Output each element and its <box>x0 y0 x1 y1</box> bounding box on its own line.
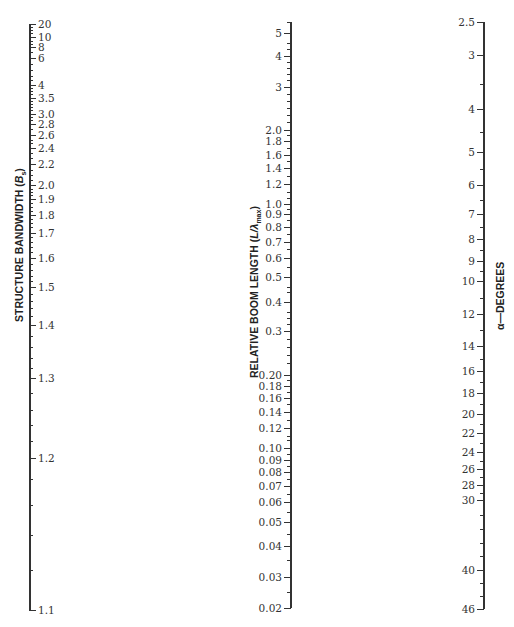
major-tick <box>477 371 484 372</box>
minor-tick <box>480 556 484 557</box>
scale-alpha-degrees: 2.5345678910121416182022242628304046α—DE… <box>0 0 514 627</box>
tick-label: 8 <box>468 234 475 244</box>
tick-label: 46 <box>462 604 475 614</box>
axis-title: α—DEGREES <box>494 262 506 330</box>
major-tick <box>477 261 484 262</box>
major-tick <box>477 570 484 571</box>
tick-label: 16 <box>462 366 475 376</box>
tick-label: 28 <box>462 480 475 490</box>
major-tick <box>477 314 484 315</box>
minor-tick <box>480 424 484 425</box>
axis-line <box>483 22 485 609</box>
minor-tick <box>480 359 484 360</box>
major-tick <box>477 433 484 434</box>
minor-tick <box>480 330 484 331</box>
major-tick <box>477 393 484 394</box>
tick-label: 5 <box>468 147 475 157</box>
major-tick <box>477 55 484 56</box>
tick-label: 30 <box>462 495 475 505</box>
tick-label: 22 <box>462 428 475 438</box>
major-tick <box>477 185 484 186</box>
major-tick <box>477 109 484 110</box>
tick-label: 40 <box>462 565 475 575</box>
major-tick <box>477 485 484 486</box>
tick-label: 2.5 <box>458 17 475 27</box>
tick-label: 20 <box>462 409 475 419</box>
major-tick <box>477 414 484 415</box>
minor-tick <box>480 298 484 299</box>
tick-label: 9 <box>468 256 475 266</box>
minor-tick <box>480 493 484 494</box>
major-tick <box>477 22 484 23</box>
minor-tick <box>480 596 484 597</box>
tick-label: 6 <box>468 180 475 190</box>
tick-label: 4 <box>468 104 475 114</box>
major-tick <box>477 214 484 215</box>
minor-tick <box>480 250 484 251</box>
major-tick <box>477 609 484 610</box>
minor-tick <box>480 227 484 228</box>
minor-tick <box>480 404 484 405</box>
minor-tick <box>480 271 484 272</box>
tick-label: 26 <box>462 464 475 474</box>
major-tick <box>477 452 484 453</box>
minor-tick <box>480 477 484 478</box>
minor-tick <box>480 529 484 530</box>
tick-label: 12 <box>462 309 475 319</box>
tick-label: 10 <box>462 276 475 286</box>
tick-label: 7 <box>468 209 475 219</box>
minor-tick <box>480 200 484 201</box>
minor-tick <box>480 461 484 462</box>
minor-tick <box>480 583 484 584</box>
major-tick <box>477 346 484 347</box>
minor-tick <box>480 169 484 170</box>
minor-tick <box>480 543 484 544</box>
major-tick <box>477 152 484 153</box>
tick-label: 18 <box>462 388 475 398</box>
major-tick <box>477 281 484 282</box>
major-tick <box>477 239 484 240</box>
tick-label: 14 <box>462 341 475 351</box>
tick-label: 3 <box>468 50 475 60</box>
minor-tick <box>480 132 484 133</box>
major-tick <box>477 500 484 501</box>
major-tick <box>477 469 484 470</box>
minor-tick <box>480 515 484 516</box>
minor-tick <box>480 382 484 383</box>
minor-tick <box>480 84 484 85</box>
tick-label: 24 <box>462 447 475 457</box>
minor-tick <box>480 443 484 444</box>
